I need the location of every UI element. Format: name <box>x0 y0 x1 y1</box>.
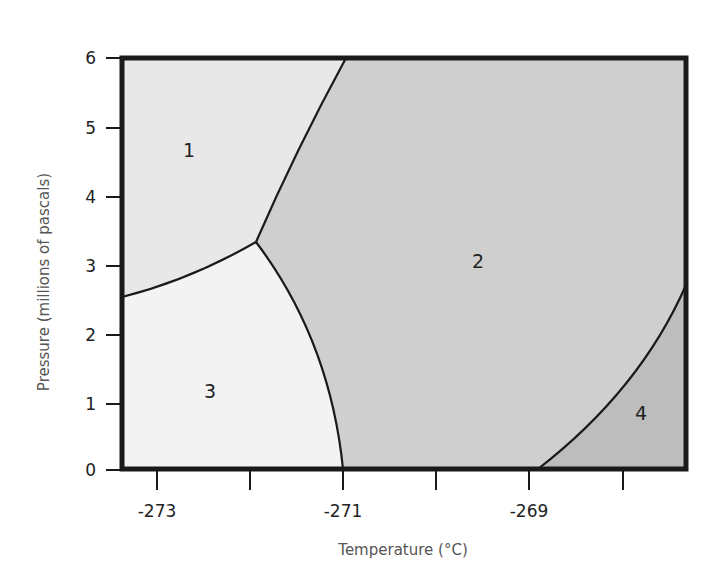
region-label-4: 4 <box>635 402 647 424</box>
y-tick-label: 1 <box>85 394 96 414</box>
y-tick-label: 2 <box>85 325 96 345</box>
y-tick-labels: 6 5 4 3 2 1 0 <box>85 48 96 480</box>
y-tick-label: 0 <box>85 460 96 480</box>
region-label-1: 1 <box>183 139 195 161</box>
y-tick-label: 4 <box>85 187 96 207</box>
x-axis <box>157 471 623 490</box>
y-axis-title: Pressure (millions of pascals) <box>35 173 53 391</box>
plot-regions <box>122 58 686 469</box>
region-label-3: 3 <box>204 380 216 402</box>
region-label-2: 2 <box>472 250 484 272</box>
y-tick-label: 6 <box>85 48 96 68</box>
y-tick-label: 3 <box>85 256 96 276</box>
x-tick-label: -273 <box>138 501 177 521</box>
y-axis <box>106 58 120 470</box>
x-tick-label: -269 <box>510 501 549 521</box>
x-tick-label: -271 <box>324 501 363 521</box>
x-axis-title: Temperature (°C) <box>337 541 467 559</box>
x-tick-labels: -273 -271 -269 <box>138 501 549 521</box>
phase-diagram-chart: 6 5 4 3 2 1 0 -273 -271 -269 1 2 3 4 Tem… <box>0 0 725 579</box>
y-tick-label: 5 <box>85 118 96 138</box>
